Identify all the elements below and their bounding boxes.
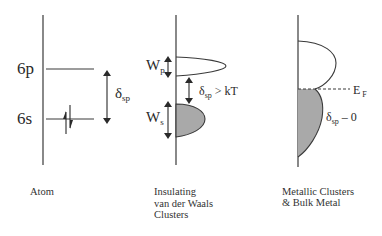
atom-caption: Atom: [30, 186, 54, 198]
metallic-panel: [298, 15, 350, 167]
ws-band-label: Ws: [146, 110, 164, 127]
metallic-upper-band-lobe: [298, 41, 336, 89]
insulating-caption-line1: Insulating: [154, 186, 196, 198]
spin-down-arrow-icon: [70, 105, 73, 129]
ws-band-lobe-filled: [176, 104, 205, 137]
wp-band-lobe: [176, 57, 226, 76]
metallic-lower-band-filled: [298, 89, 323, 157]
insulating-caption-line2: van der Waals: [154, 198, 213, 210]
insulating-caption-line3: Clusters: [154, 209, 188, 221]
atom-panel: [43, 15, 107, 165]
6p-level-label: 6p: [17, 60, 34, 77]
insulating-gap-relation: δsp > kT: [199, 85, 238, 100]
metallic-caption-line2: & Bulk Metal: [282, 197, 340, 209]
atom-gap-label: δsp: [115, 86, 130, 103]
fermi-level-label: EF: [353, 84, 367, 99]
wp-band-label: Wp: [146, 58, 165, 75]
spin-up-arrow-icon: [63, 111, 66, 134]
6s-level-label: 6s: [17, 110, 32, 127]
metallic-gap-relation: δsp – 0: [326, 111, 357, 126]
